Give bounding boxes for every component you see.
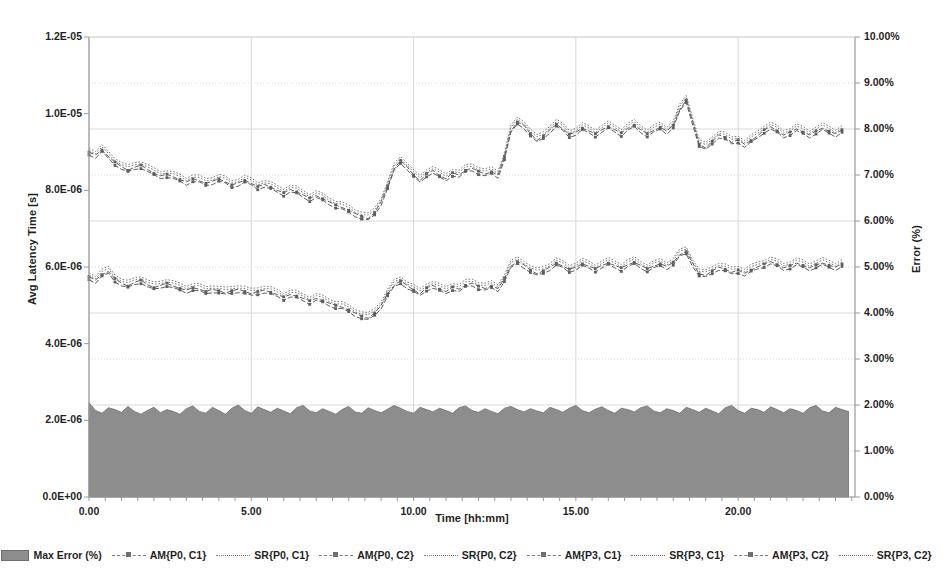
series-marker	[140, 282, 143, 285]
series-marker	[724, 138, 727, 141]
series-marker	[399, 282, 402, 285]
series-marker	[542, 272, 545, 275]
series-marker	[776, 130, 779, 133]
legend-item[interactable]: SR{P0, C2}	[424, 549, 517, 561]
series-marker	[789, 268, 792, 271]
series-marker	[373, 314, 376, 317]
series-marker	[672, 264, 675, 267]
series-marker	[789, 134, 792, 137]
series-marker	[555, 263, 558, 266]
series-marker	[308, 299, 311, 302]
series-marker	[308, 303, 311, 306]
legend-item[interactable]: AM{P0, C2}	[319, 549, 414, 561]
series-marker	[360, 218, 363, 221]
series-marker	[542, 137, 545, 140]
legend-item[interactable]: SR{P3, C2}	[839, 549, 932, 561]
series-line	[89, 102, 842, 219]
series-marker	[477, 173, 480, 176]
series-marker	[321, 199, 324, 202]
series-marker	[685, 252, 688, 255]
legend-line-icon	[424, 555, 458, 556]
series-am-p0-c2-	[88, 101, 844, 220]
series-marker	[750, 140, 753, 143]
series-marker	[191, 180, 194, 183]
series-marker	[503, 280, 506, 283]
series-marker	[243, 292, 246, 295]
series-am-p0-c1-	[88, 99, 844, 219]
series-marker	[256, 188, 259, 191]
legend-marker-icon	[126, 552, 131, 557]
legend-label: SR{P3, C1}	[669, 549, 724, 561]
series-marker	[412, 175, 415, 178]
series-marker	[594, 271, 597, 274]
series-marker	[373, 213, 376, 216]
series-marker	[763, 132, 766, 135]
series-marker	[256, 185, 259, 188]
series-line	[89, 247, 842, 313]
legend-item[interactable]: AM{P3, C1}	[527, 549, 622, 561]
series-marker	[581, 128, 584, 131]
series-marker	[776, 264, 779, 267]
series-marker	[581, 264, 584, 267]
legend-line-icon	[839, 555, 873, 556]
legend-item[interactable]: Max Error (%)	[1, 549, 101, 561]
series-sr-p0-c2-	[89, 96, 842, 213]
series-marker	[815, 266, 818, 269]
series-marker	[555, 125, 558, 128]
series-marker	[230, 184, 233, 187]
series-marker	[711, 143, 714, 146]
series-marker	[191, 289, 194, 292]
series-marker	[140, 167, 143, 170]
legend-label: AM{P3, C1}	[565, 549, 622, 561]
series-marker	[230, 289, 233, 292]
series-marker	[698, 145, 701, 148]
series-line	[89, 96, 842, 213]
series-marker	[334, 207, 337, 210]
series-max-error	[89, 403, 849, 497]
series-marker	[386, 294, 389, 297]
legend-item[interactable]: SR{P3, C1}	[631, 549, 724, 561]
legend-item[interactable]: AM{P3, C2}	[734, 549, 829, 561]
series-marker	[114, 281, 117, 284]
series-marker	[763, 266, 766, 269]
series-marker	[178, 180, 181, 183]
series-marker	[516, 262, 519, 265]
series-marker	[360, 215, 363, 218]
series-marker	[802, 132, 805, 135]
series-marker	[646, 270, 649, 273]
series-marker	[607, 263, 610, 266]
series-marker	[101, 275, 104, 278]
legend-swatch-line	[216, 550, 250, 561]
legend-swatch-line	[424, 550, 458, 561]
series-marker	[659, 264, 662, 267]
series-marker	[490, 172, 493, 175]
series-marker	[503, 158, 506, 161]
series-marker	[217, 180, 220, 183]
series-marker	[542, 269, 545, 272]
series-marker	[568, 133, 571, 136]
series-marker	[282, 195, 285, 198]
series-marker	[698, 275, 701, 278]
legend-swatch-line	[319, 550, 353, 561]
series-marker	[711, 272, 714, 275]
series-marker	[815, 133, 818, 136]
legend-swatch-line	[839, 550, 873, 561]
series-marker	[672, 127, 675, 130]
legend-item[interactable]: SR{P0, C1}	[216, 549, 309, 561]
series-marker	[425, 176, 428, 179]
series-marker	[153, 287, 156, 290]
legend-marker-icon	[748, 552, 753, 557]
series-marker	[127, 170, 130, 173]
legend-item[interactable]: AM{P0, C1}	[112, 549, 207, 561]
legend-marker-icon	[541, 552, 546, 557]
legend-swatch-line	[112, 550, 146, 561]
series-marker	[828, 132, 831, 135]
series-marker	[412, 290, 415, 293]
series-marker	[815, 263, 818, 266]
legend-label: AM{P3, C2}	[772, 549, 829, 561]
legend-swatch-line	[734, 550, 768, 561]
series-marker	[529, 135, 532, 138]
series-marker	[295, 191, 298, 194]
series-marker	[464, 285, 467, 288]
area-fill	[89, 403, 849, 497]
